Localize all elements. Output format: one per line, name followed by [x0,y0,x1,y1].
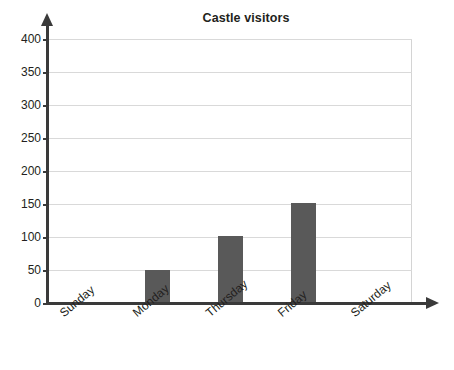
x-axis-tick-label-sunday: Sunday [57,283,97,320]
x-axis-tick-label-friday: Friday [275,288,310,320]
bar-chart: Castle visitors 050100150200250300350400… [0,0,454,370]
x-axis-tick-label-monday: Monday [130,282,172,320]
x-axis-tick-label-thursday: Thursday [203,277,250,320]
x-axis-tick-label-saturday: Saturday [348,278,394,320]
x-axis-labels: SundayMondayThursdayFridaySaturday [0,0,454,370]
